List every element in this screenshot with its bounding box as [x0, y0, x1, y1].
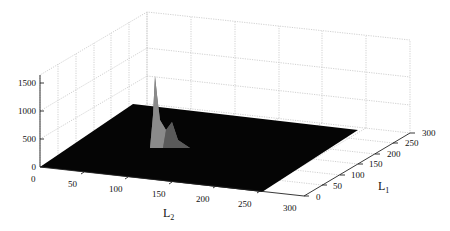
y-tick: 100: [351, 170, 365, 180]
z-tick-labels: 0 500 1000 1500: [18, 78, 37, 172]
y-tick: 50: [333, 181, 343, 191]
z-tick: 1500: [18, 78, 37, 88]
x-tick: 200: [196, 194, 210, 204]
y-tick: 150: [369, 159, 383, 169]
x-tick: 0: [31, 174, 36, 184]
x-tick: 150: [152, 189, 166, 199]
y-tick: 0: [316, 192, 321, 202]
x-tick: 300: [283, 203, 297, 213]
y-tick: 250: [405, 138, 419, 148]
z-tick: 0: [32, 162, 37, 172]
x-tick: 250: [238, 199, 252, 209]
x-tick: 100: [109, 184, 123, 194]
y-tick: 300: [422, 128, 436, 138]
y-axis-label: L1: [378, 179, 389, 195]
surface-floor: [40, 104, 358, 192]
y-tick: 200: [387, 149, 401, 159]
surface-plot: 0 500 1000 1500 0 50 100 150 200 250 300…: [0, 0, 450, 231]
x-tick: 50: [68, 179, 78, 189]
z-tick: 500: [23, 134, 37, 144]
z-tick: 1000: [18, 106, 37, 116]
x-axis-label: L2: [163, 206, 174, 222]
